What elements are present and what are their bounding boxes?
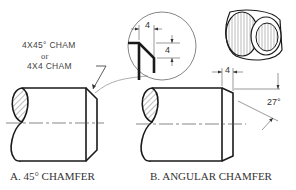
shaft-a — [6, 66, 148, 161]
inset-dim-vertical: 4 — [165, 45, 170, 55]
note-line-1: 4X45° CHAM — [22, 40, 76, 50]
detail-inset — [128, 12, 196, 80]
dim-length-b: 4 — [225, 65, 230, 75]
inset-dim-horizontal: 4 — [145, 20, 150, 30]
dim-angle-b: 27° — [267, 97, 281, 107]
note-line-2: or — [41, 51, 49, 61]
note-line-3: 4X4 CHAM — [27, 61, 72, 71]
caption-a: A. 45° CHAMFER — [10, 170, 95, 182]
isometric-part — [226, 10, 282, 60]
shaft-b — [136, 68, 280, 161]
caption-b: B. ANGULAR CHAMFER — [150, 170, 272, 182]
